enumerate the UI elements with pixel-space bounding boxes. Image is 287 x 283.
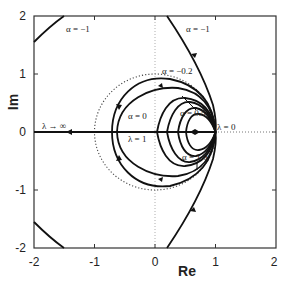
x-tick-label: 2 bbox=[271, 255, 278, 269]
arrow-left-icon bbox=[190, 129, 195, 135]
x-tick-label: -1 bbox=[89, 255, 100, 269]
y-axis-title: Im bbox=[5, 94, 21, 110]
x-tick-label: 0 bbox=[152, 255, 159, 269]
y-tick-label: 1 bbox=[19, 67, 26, 81]
y-tick-label: 2 bbox=[19, 9, 26, 23]
alpha-m1-corner-bottom bbox=[34, 222, 64, 248]
label-alpha-10: α = 1.0 bbox=[182, 152, 208, 162]
arrow-up-icon bbox=[158, 177, 163, 182]
root-locus-chart: -2 -1 0 1 2 2 1 0 -1 -2 Re Im α = −1 α =… bbox=[0, 0, 287, 283]
label-lambda-inf: λ → ∞ bbox=[42, 121, 66, 131]
label-alpha-0: α = 0 bbox=[128, 111, 147, 121]
y-tick-label: -2 bbox=[15, 241, 26, 255]
arrow-left-icon bbox=[66, 129, 72, 135]
label-alpha-m02: α = −0.2 bbox=[162, 66, 193, 76]
label-alpha-m1-left: α = −1 bbox=[66, 24, 90, 34]
y-tick-label: -1 bbox=[15, 183, 26, 197]
y-tick-label: 0 bbox=[19, 125, 26, 139]
arrow-right-icon bbox=[195, 129, 200, 135]
label-lambda-0: λ = 0 bbox=[217, 122, 236, 132]
alpha-m1-corner-top bbox=[34, 16, 64, 42]
x-tick-label: 1 bbox=[212, 255, 219, 269]
arrow-down-icon bbox=[158, 83, 163, 88]
label-lambda-1: λ = 1 bbox=[128, 134, 146, 144]
label-alpha-m1-right: α = −1 bbox=[186, 24, 210, 34]
x-axis-title: Re bbox=[178, 263, 196, 279]
x-tick-label: -2 bbox=[29, 255, 40, 269]
label-alpha-05: α = 0.5 bbox=[180, 108, 206, 118]
